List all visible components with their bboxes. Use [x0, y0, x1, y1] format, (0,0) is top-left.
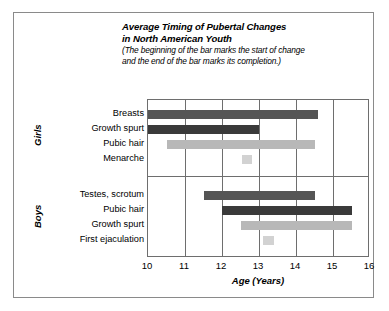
chart-title-line-1: Average Timing of Pubertal Changes [122, 21, 372, 33]
chart-subtitle-line-1: (The beginning of the bar marks the star… [122, 45, 372, 56]
plot-inner [148, 100, 368, 256]
category-label-girls-pubic-hair: Pubic hair [34, 138, 144, 148]
category-label-column: BreastsGrowth spurtPubic hairMenarcheTes… [32, 99, 144, 257]
chart-subtitle-block: (The beginning of the bar marks the star… [122, 45, 372, 66]
x-tick-label-13: 13 [253, 260, 264, 271]
x-tick-label-16: 16 [364, 260, 375, 271]
chart-title-block: Average Timing of Pubertal Changes in No… [122, 21, 372, 66]
x-tick-label-14: 14 [290, 260, 301, 271]
chart-title-line-2: in North American Youth [122, 33, 372, 45]
bar-girls-menarche [242, 155, 251, 164]
x-tick-label-12: 12 [216, 260, 227, 271]
bar-boys-pubic-hair [222, 206, 352, 215]
bar-boys-first-ejaculation [263, 236, 274, 245]
gridline-14 [296, 100, 297, 256]
gridline-15 [333, 100, 334, 256]
category-label-boys-testes-scrotum: Testes, scrotum [34, 189, 144, 199]
category-label-girls-menarche: Menarche [34, 153, 144, 163]
bar-girls-pubic-hair [167, 140, 315, 149]
bar-boys-testes-scrotum [204, 191, 315, 200]
bar-girls-breasts [148, 110, 318, 119]
category-label-boys-first-ejaculation: First ejaculation [34, 234, 144, 244]
category-label-boys-growth-spurt: Growth spurt [34, 219, 144, 229]
gridline-12 [222, 100, 223, 256]
category-label-girls-growth-spurt: Growth spurt [34, 123, 144, 133]
gridline-13 [259, 100, 260, 256]
category-label-girls-breasts: Breasts [34, 108, 144, 118]
figure-frame: Average Timing of Pubertal Changes in No… [13, 12, 374, 298]
plot-area [147, 99, 369, 257]
bar-girls-growth-spurt [148, 125, 259, 134]
x-tick-label-15: 15 [327, 260, 338, 271]
gridline-11 [185, 100, 186, 256]
chart-subtitle-line-2: and the end of the bar marks its complet… [122, 56, 372, 67]
bar-boys-growth-spurt [241, 221, 352, 230]
x-tick-label-10: 10 [142, 260, 153, 271]
x-tick-label-11: 11 [179, 260, 189, 271]
category-label-boys-pubic-hair: Pubic hair [34, 204, 144, 214]
x-axis-title: Age (Years) [147, 275, 369, 286]
group-section-divider [148, 176, 368, 177]
